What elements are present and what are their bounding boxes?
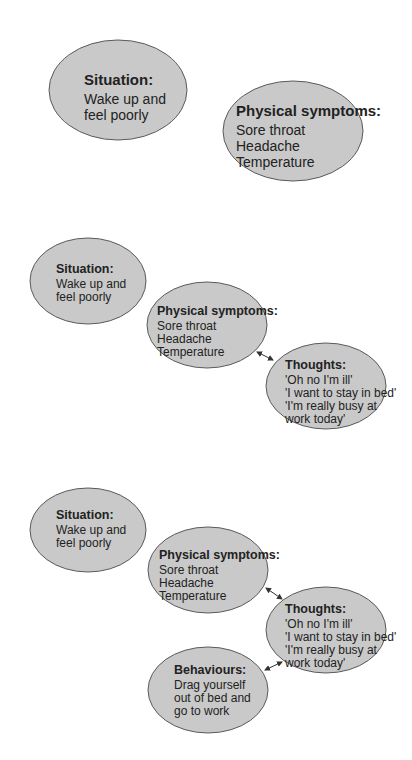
- bidirectional-arrow: [265, 662, 282, 670]
- physical-symptoms-node: Physical symptoms: Sore throat Headache …: [159, 548, 280, 603]
- node-line: feel poorly: [84, 107, 166, 123]
- node-title: Physical symptoms:: [157, 304, 278, 319]
- node-title: Situation:: [84, 70, 166, 89]
- node-line: Wake up and: [84, 91, 166, 107]
- node-line: Headache: [236, 138, 381, 154]
- node-line: Temperature: [157, 346, 278, 359]
- situation-node: Situation: Wake up and feel poorly: [84, 70, 166, 123]
- node-line: Temperature: [159, 590, 280, 603]
- situation-node: Situation: Wake up and feel poorly: [56, 262, 126, 304]
- node-title: Thoughts:: [285, 358, 396, 373]
- node-title: Behaviours:: [174, 663, 251, 678]
- physical-symptoms-node: Physical symptoms: Sore throat Headache …: [236, 101, 381, 170]
- node-title: Thoughts:: [285, 602, 396, 617]
- thoughts-node: Thoughts: 'Oh no I'm ill' 'I want to sta…: [285, 358, 396, 426]
- node-line: feel poorly: [56, 291, 126, 304]
- node-line: feel poorly: [56, 537, 126, 550]
- situation-node: Situation: Wake up and feel poorly: [56, 508, 126, 550]
- node-line: Sore throat: [236, 122, 381, 138]
- node-title: Situation:: [56, 508, 126, 523]
- node-title: Situation:: [56, 262, 126, 277]
- node-line: go to work: [174, 705, 251, 718]
- behaviours-node: Behaviours: Drag yourself out of bed and…: [174, 663, 251, 718]
- thoughts-node: Thoughts: 'Oh no I'm ill' 'I want to sta…: [285, 602, 396, 670]
- node-title: Physical symptoms:: [159, 548, 280, 563]
- physical-symptoms-node: Physical symptoms: Sore throat Headache …: [157, 304, 278, 359]
- node-line: work today': [285, 657, 396, 670]
- node-title: Physical symptoms:: [236, 101, 381, 120]
- node-line: Temperature: [236, 154, 381, 170]
- node-line: work today': [285, 413, 396, 426]
